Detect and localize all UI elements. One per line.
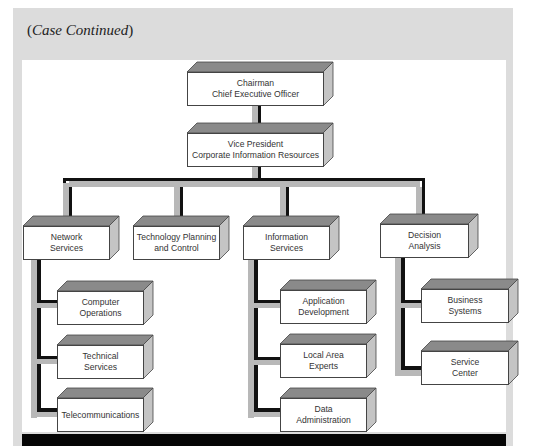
box-text: Information	[265, 232, 308, 243]
box-text: Development	[298, 307, 349, 318]
box-text: Chairman	[237, 78, 274, 89]
box-text: Services	[270, 243, 303, 254]
box-text: Experts	[309, 361, 338, 372]
connector	[401, 303, 423, 308]
connector	[401, 258, 405, 366]
box-text: Service	[451, 357, 480, 368]
connector	[37, 303, 57, 308]
connector	[254, 408, 280, 412]
box-data-administration: DataAdministration	[280, 388, 376, 432]
box-text: and Control	[154, 243, 198, 254]
connector	[258, 105, 261, 125]
connector	[31, 412, 57, 417]
box-information-services: InformationServices	[243, 216, 339, 260]
box-text: Decision	[408, 230, 441, 241]
connector	[69, 181, 420, 187]
connector	[254, 360, 280, 365]
box-local-area-experts: Local AreaExperts	[280, 334, 376, 378]
box-text: Analysis	[409, 241, 441, 252]
connector	[37, 258, 41, 408]
connector	[248, 412, 280, 417]
case-continued-header: (Case Continued)	[27, 22, 133, 39]
box-network-services: NetworkServices	[23, 216, 119, 260]
box-text: Systems	[449, 306, 482, 317]
box-text: Computer	[82, 297, 120, 308]
connector	[395, 370, 423, 376]
box-text: Telecommunications	[62, 410, 140, 421]
box-text: Data	[314, 404, 332, 415]
box-text: Chief Executive Officer	[212, 89, 299, 100]
box-decision-analysis: DecisionAnalysis	[380, 214, 478, 258]
box-text: Technology Planning	[137, 232, 216, 243]
box-text: Local Area	[303, 350, 344, 361]
box-text: Technical	[83, 351, 119, 362]
connector	[69, 187, 72, 219]
box-text: Services	[84, 362, 117, 373]
box-application-development: ApplicationDevelopment	[280, 280, 376, 324]
box-telecommunications: Telecommunications	[57, 388, 153, 432]
bottom-bar	[22, 434, 506, 446]
connector	[286, 187, 289, 219]
box-text: Corporate Information Resources	[192, 150, 319, 161]
box-technical-services: TechnicalServices	[57, 335, 153, 379]
box-text: Services	[50, 243, 83, 254]
box-text: Center	[452, 368, 478, 379]
connector	[254, 258, 258, 408]
connector	[37, 408, 57, 412]
box-text: Vice President	[228, 139, 283, 150]
connector	[180, 187, 183, 219]
box-computer-operations: ComputerOperations	[57, 281, 153, 325]
box-text: Administration	[296, 415, 350, 426]
box-vice-president: Vice PresidentCorporate Information Reso…	[187, 123, 333, 167]
box-text: Business	[448, 295, 483, 306]
connector	[401, 366, 423, 370]
box-text: Network	[51, 232, 83, 243]
connector	[37, 359, 57, 364]
box-text: Application	[302, 296, 344, 307]
box-service-center: ServiceCenter	[421, 341, 518, 385]
box-technology-planning: Technology Planningand Control	[133, 216, 229, 260]
box-text: Operations	[79, 308, 121, 319]
connector	[254, 303, 280, 308]
box-chairman-ceo: ChairmanChief Executive Officer	[187, 62, 333, 106]
box-business-systems: BusinessSystems	[421, 279, 518, 323]
